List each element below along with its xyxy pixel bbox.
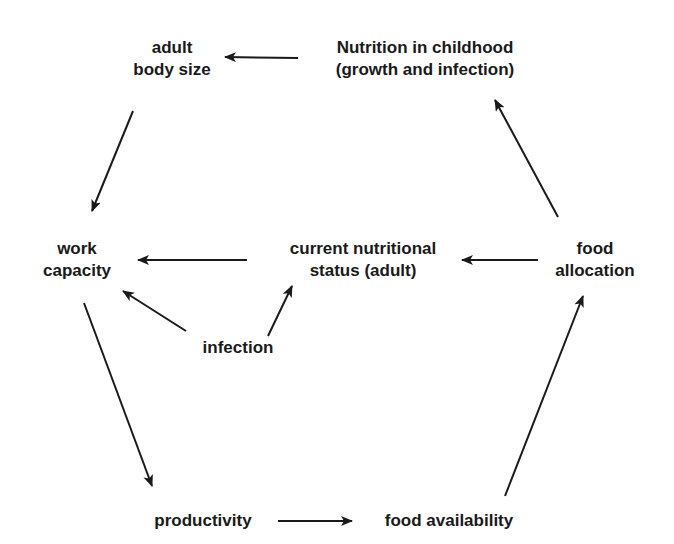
node-label: work <box>43 238 111 260</box>
arrow-body-size-to-work-capacity <box>92 111 133 211</box>
arrow-nutrition-to-body-size <box>225 57 298 58</box>
arrow-infection-to-status <box>268 286 292 336</box>
node-label: food <box>555 238 634 260</box>
node-productivity: productivity <box>154 510 251 532</box>
arrow-availability-to-allocation <box>505 296 583 496</box>
node-label: allocation <box>555 260 634 282</box>
node-label: food availability <box>385 510 513 532</box>
node-label: current nutritional <box>290 238 436 260</box>
node-label: adult <box>133 37 210 59</box>
node-food-allocation: food allocation <box>555 238 634 282</box>
node-label: productivity <box>154 510 251 532</box>
node-label: Nutrition in childhood <box>336 37 514 59</box>
node-infection: infection <box>203 337 274 359</box>
node-label: body size <box>133 59 210 81</box>
node-current-status: current nutritional status (adult) <box>290 238 436 282</box>
arrow-infection-to-work-capacity <box>123 291 186 331</box>
arrow-allocation-to-nutrition <box>495 100 558 217</box>
node-label: status (adult) <box>290 260 436 282</box>
node-nutrition-childhood: Nutrition in childhood (growth and infec… <box>336 37 514 81</box>
node-work-capacity: work capacity <box>43 238 111 282</box>
node-food-availability: food availability <box>385 510 513 532</box>
arrow-work-capacity-to-productivity <box>84 303 152 486</box>
node-label: (growth and infection) <box>336 59 514 81</box>
nutrition-cycle-diagram: adult body size Nutrition in childhood (… <box>0 0 674 544</box>
node-adult-body-size: adult body size <box>133 37 210 81</box>
node-label: infection <box>203 337 274 359</box>
node-label: capacity <box>43 260 111 282</box>
